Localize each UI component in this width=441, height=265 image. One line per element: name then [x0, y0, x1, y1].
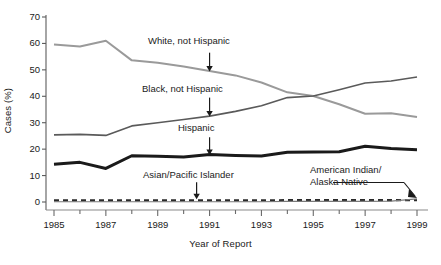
y-axis-tick-label: 10 — [18, 170, 40, 181]
y-axis-tick-label: 20 — [18, 143, 40, 154]
annotation-american-indian-line1: American Indian/ — [310, 164, 381, 176]
x-axis-tick-label: 1999 — [400, 219, 434, 230]
x-axis-tick-label: 1997 — [348, 219, 382, 230]
annotation-white-not-hispanic: White, not Hispanic — [148, 35, 230, 47]
y-axis-tick-label: 50 — [18, 64, 40, 75]
series-line-black-not-hispanic — [54, 77, 417, 135]
y-axis-tick-label: 30 — [18, 117, 40, 128]
annotation-black-not-hispanic: Black, not Hispanic — [142, 83, 223, 95]
y-axis-tick-label: 0 — [18, 196, 40, 207]
american-indian-annotation-arrowhead — [408, 189, 417, 198]
annotation-hispanic: Hispanic — [178, 122, 214, 134]
x-axis-tick-label: 1995 — [296, 219, 330, 230]
x-axis-tick-label: 1985 — [37, 219, 71, 230]
y-axis-tick-label: 40 — [18, 90, 40, 101]
axes-group — [42, 15, 428, 216]
x-axis-tick-label: 1987 — [89, 219, 123, 230]
x-axis-tick-label: 1993 — [244, 219, 278, 230]
x-axis-tick-label: 1989 — [141, 219, 175, 230]
asian-annotation-arrowhead — [193, 194, 199, 200]
series-line-white-not-hispanic — [54, 41, 417, 117]
x-axis-tick-label: 1991 — [193, 219, 227, 230]
annotation-asian-pacific-islander: Asian/Pacific Islander — [143, 169, 234, 181]
annotation-american-indian-line2: Alaska Native — [310, 176, 368, 188]
y-axis-tick-label: 60 — [18, 37, 40, 48]
y-axis-tick-label: 70 — [18, 11, 40, 22]
chart-container: Cases (%) Year of Report 010203040506070… — [0, 0, 441, 265]
